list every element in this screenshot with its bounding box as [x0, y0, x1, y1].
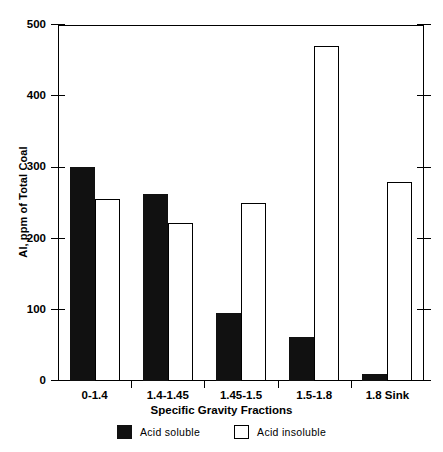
- bars-layer: [58, 25, 424, 381]
- legend-label: Acid insoluble: [257, 426, 326, 438]
- bar-acid-insoluble: [314, 46, 339, 381]
- x-category-label: 1.8 Sink: [351, 389, 424, 401]
- legend-swatch-icon: [117, 425, 132, 439]
- y-tick-label: 500: [2, 19, 46, 31]
- y-tick-label: 300: [2, 161, 46, 173]
- bar-acid-soluble: [289, 337, 314, 381]
- x-category-label: 1.45-1.5: [204, 389, 277, 401]
- bar-acid-soluble: [143, 194, 168, 381]
- y-tick-label: 0: [2, 375, 46, 387]
- legend-item: Acid insoluble: [234, 425, 326, 439]
- bar-acid-insoluble: [168, 223, 193, 381]
- bar-acid-insoluble: [387, 182, 412, 381]
- y-axis-title: Al, ppm of Total Coal: [17, 132, 29, 272]
- bar-acid-soluble: [216, 313, 241, 381]
- x-category-label: 1.5-1.8: [278, 389, 351, 401]
- legend-item: Acid soluble: [117, 425, 200, 439]
- y-tick-label: 100: [2, 304, 46, 316]
- chart-legend: Acid solubleAcid insoluble: [0, 425, 443, 439]
- x-category-label: 0-1.4: [58, 389, 131, 401]
- bar-acid-insoluble: [95, 199, 120, 381]
- legend-swatch-icon: [234, 425, 249, 439]
- x-category-label: 1.4-1.45: [131, 389, 204, 401]
- x-tick-mark: [204, 381, 205, 388]
- y-tick-label: 200: [2, 233, 46, 245]
- x-tick-mark: [278, 381, 279, 388]
- legend-label: Acid soluble: [140, 426, 200, 438]
- bar-acid-insoluble: [241, 203, 266, 381]
- x-tick-mark: [351, 381, 352, 388]
- bar-acid-soluble: [70, 167, 95, 381]
- bar-acid-soluble: [362, 374, 387, 381]
- x-axis-title: Specific Gravity Fractions: [0, 404, 443, 416]
- bar-chart: Al, ppm of Total Coal 0100200300400500 0…: [0, 0, 443, 452]
- x-tick-mark: [131, 381, 132, 388]
- y-tick-label: 400: [2, 90, 46, 102]
